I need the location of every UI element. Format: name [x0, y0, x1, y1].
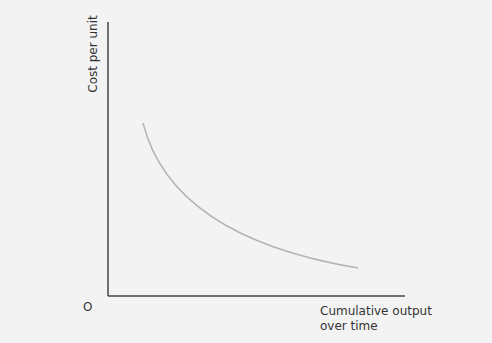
- x-axis-label-line1: Cumulative output: [320, 304, 432, 319]
- cost-curve: [143, 123, 358, 268]
- chart-area: Cost per unit O Cumulative output over t…: [0, 0, 492, 343]
- x-axis-label-line2: over time: [320, 319, 432, 334]
- chart-plot: [0, 0, 492, 343]
- y-axis-label: Cost per unit: [86, 15, 100, 93]
- x-axis-label: Cumulative output over time: [320, 304, 432, 334]
- origin-label: O: [83, 300, 92, 314]
